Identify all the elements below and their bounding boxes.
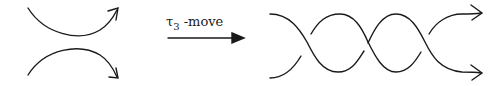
braid-strand-a-2 <box>368 14 481 73</box>
move-suffix: -move <box>180 14 224 29</box>
braid-strand-b-3 <box>429 13 481 34</box>
move-arrowhead <box>232 33 244 43</box>
move-label: τ3 -move <box>166 14 223 32</box>
braid-top-arrowhead <box>471 5 482 20</box>
braid-move-diagram <box>0 0 491 86</box>
braid-strand-a <box>270 14 364 72</box>
braid-strand-b-2 <box>311 14 421 72</box>
left-bottom-strand <box>28 49 117 77</box>
left-top-strand <box>28 8 117 36</box>
braid-strand-b <box>270 56 301 78</box>
